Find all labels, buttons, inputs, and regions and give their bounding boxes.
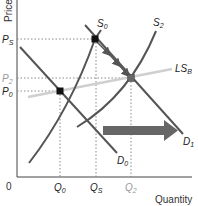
chart-canvas: Price Quantity 0 PS P2 P0 Q0 QS Q2 S0 S2… [0,0,198,206]
equilibrium-point-long-run [128,75,135,82]
label-lsb: LSB [175,63,192,75]
demand-shift-arrow [103,120,178,141]
label-d0: D0 [117,155,128,167]
x-axis-title: Quantity [155,194,192,205]
label-s0: S0 [97,18,108,30]
origin-label: 0 [6,181,12,192]
y-axis-title: Price [3,0,14,22]
label-d1: D1 [183,136,194,148]
tick-qs: QS [90,182,103,194]
tick-q0: Q0 [54,182,66,194]
label-s2: S2 [153,17,164,29]
tick-ps: PS [2,34,14,46]
adjustment-arrows [97,42,127,74]
tick-q2: Q2 [125,182,137,194]
supply-demand-chart: Price Quantity 0 PS P2 P0 Q0 QS Q2 S0 S2… [0,0,198,206]
equilibrium-point-short-run [92,36,99,43]
equilibrium-point-initial [57,88,64,95]
tick-p2: P2 [2,73,13,85]
curve-lsb [28,69,172,97]
tick-p0: P0 [2,86,13,98]
